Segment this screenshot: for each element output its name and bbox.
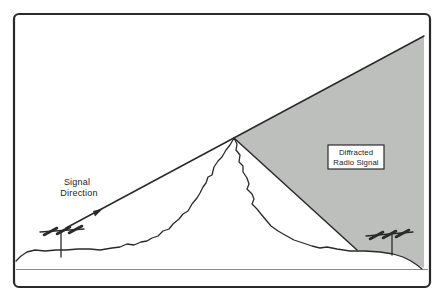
- signal-direction-label-line1: Signal: [64, 177, 90, 187]
- diagram-canvas: Signal Direction Diffracted Radio Signal: [0, 0, 446, 298]
- diffracted-signal-label-line2: Radio Signal: [333, 158, 379, 167]
- signal-direction-arrowhead-icon: [93, 209, 103, 217]
- diffraction-figure: Signal Direction Diffracted Radio Signal: [0, 0, 446, 298]
- signal-direction-label-line2: Direction: [60, 188, 97, 198]
- transmitter-antenna-icon: [40, 226, 84, 257]
- diffracted-signal-label-line1: Diffracted: [339, 148, 373, 157]
